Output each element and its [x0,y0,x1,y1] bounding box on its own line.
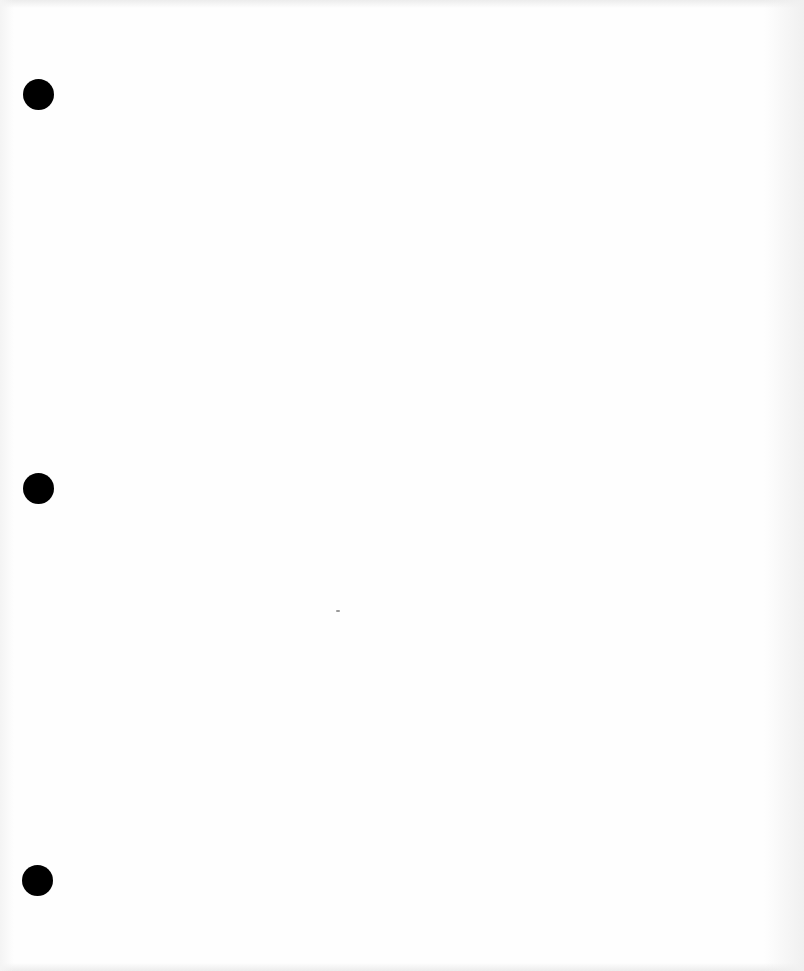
binder-hole-bottom [22,865,53,896]
paper-speck [336,610,340,612]
scan-shadow-left [0,0,14,971]
blank-document-page [0,0,804,971]
scan-shadow-right [764,0,804,971]
scan-shadow-bottom [0,963,804,971]
scan-shadow-top [0,0,804,8]
binder-hole-middle [23,473,54,504]
binder-hole-top [23,79,54,110]
